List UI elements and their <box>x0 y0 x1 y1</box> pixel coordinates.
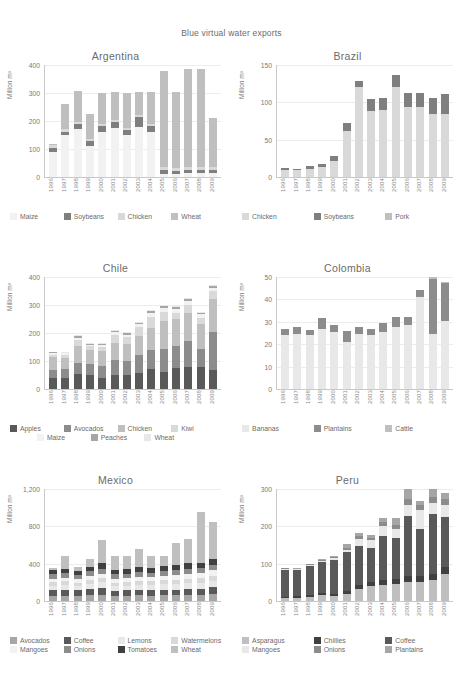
bar-segment <box>86 350 94 364</box>
legend-label: Coffee <box>395 637 415 644</box>
y-tick-label: 300 <box>29 90 40 97</box>
legend-swatch-icon <box>64 637 71 644</box>
x-tick-label: 2006 <box>404 602 412 632</box>
legend-item: Chicken <box>116 213 170 220</box>
bar-segment <box>441 94 449 114</box>
x-tick-label: 1997 <box>61 602 69 632</box>
y-tick-label: 0 <box>268 174 272 181</box>
bar-segment <box>404 582 412 601</box>
bar-segment <box>86 364 94 375</box>
bar-segment <box>318 167 326 177</box>
y-tick-label: 800 <box>29 523 40 530</box>
bar-column <box>147 489 155 601</box>
legend-item: Onions <box>62 646 116 653</box>
bar-column <box>318 277 326 389</box>
bar-column <box>184 65 192 177</box>
bar-column <box>147 277 155 389</box>
x-tick-label: 2003 <box>367 178 375 208</box>
bar-segment <box>61 369 69 377</box>
bar-segment <box>330 560 338 594</box>
bar-column <box>281 277 289 389</box>
bar-segment <box>355 546 363 585</box>
legend-item: Bananas <box>240 425 312 432</box>
bar-segment <box>172 319 180 346</box>
legend-swatch-icon <box>385 637 392 644</box>
bar-group-brazil <box>277 65 453 177</box>
bar-segment <box>367 540 375 548</box>
bar-column <box>86 489 94 601</box>
bar-segment <box>61 378 69 389</box>
y-tick-label: 1,200 <box>23 486 40 493</box>
legend-label: Chicken <box>252 213 277 220</box>
bar-segment <box>429 503 437 514</box>
x-tick-label: 2007 <box>416 390 424 420</box>
x-tick-label: 2004 <box>379 178 387 208</box>
bar-group-colombia <box>277 277 453 389</box>
bar-column <box>111 65 119 177</box>
legend-label: Maize <box>47 434 65 441</box>
bar-segment <box>293 327 301 334</box>
legend-swatch-icon <box>118 646 125 653</box>
x-tick-label: 2009 <box>441 178 449 208</box>
legend-label: Tomatoes <box>128 646 157 653</box>
bar-column <box>74 65 82 177</box>
bar-segment <box>111 335 119 343</box>
bar-segment <box>209 587 217 594</box>
x-tick-label: 1996 <box>48 602 56 632</box>
bar-column <box>330 489 338 601</box>
bar-segment <box>86 559 94 567</box>
legend-swatch-icon <box>64 646 71 653</box>
bar-segment <box>429 114 437 177</box>
plot-colombia <box>276 277 453 390</box>
bar-segment <box>74 91 82 122</box>
bar-segment <box>147 328 155 350</box>
legend-item: Avocados <box>62 425 116 432</box>
legend-swatch-icon <box>385 213 392 220</box>
bar-segment <box>392 327 400 389</box>
legend-chile: ApplesAvocadosChickenKiwiMaizePeachesWhe… <box>8 425 223 441</box>
legend-swatch-icon <box>314 425 321 432</box>
y-tick-label: 100 <box>261 99 272 106</box>
bar-segment <box>111 375 119 389</box>
x-tick-label: 1998 <box>305 178 313 208</box>
x-tick-label: 2006 <box>172 390 180 420</box>
figure-page: Blue virtual water exports ArgentinaMill… <box>0 0 463 688</box>
bar-column <box>318 65 326 177</box>
legend-swatch-icon <box>242 637 249 644</box>
plot-area-argentina: Million m³010020030040019961997199819992… <box>8 65 223 193</box>
bar-segment <box>86 114 94 139</box>
bar-segment <box>318 329 326 389</box>
y-axis-ticks-chile: 0100200300400 <box>16 277 42 389</box>
bar-segment <box>184 539 192 563</box>
x-tick-label: 2004 <box>379 602 387 632</box>
bar-segment <box>61 596 69 601</box>
bar-segment <box>123 361 131 375</box>
x-tick-label: 1997 <box>293 602 301 632</box>
legend-item: Watermelons <box>169 637 223 644</box>
bar-segment <box>209 522 217 559</box>
legend-item: Maize <box>35 434 89 441</box>
chart-panel-mexico: MexicoMillion m³04008001,200199619971998… <box>8 474 223 653</box>
bar-segment <box>355 589 363 601</box>
bar-segment <box>367 329 375 336</box>
x-tick-label: 1998 <box>73 602 81 632</box>
bar-column <box>429 489 437 601</box>
x-tick-label: 2004 <box>147 178 155 208</box>
legend-peru: AsparagusChilliesCoffeeMangoesOnionsPlan… <box>240 637 455 653</box>
bar-segment <box>416 510 424 529</box>
legend-item: Chillies <box>312 637 384 644</box>
x-tick-label: 1999 <box>317 602 325 632</box>
bar-column <box>392 65 400 177</box>
bar-segment <box>441 114 449 177</box>
panel-title-brazil: Brazil <box>240 50 455 62</box>
bar-segment <box>184 69 192 167</box>
bar-column <box>293 65 301 177</box>
legend-label: Wheat <box>154 434 174 441</box>
x-tick-label: 1999 <box>85 390 93 420</box>
bar-segment <box>172 92 180 168</box>
bar-column <box>147 65 155 177</box>
chart-panel-chile: ChileMillion m³0100200300400199619971998… <box>8 262 223 441</box>
bar-segment <box>441 283 449 321</box>
x-tick-label: 2009 <box>441 602 449 632</box>
bar-segment <box>209 370 217 389</box>
